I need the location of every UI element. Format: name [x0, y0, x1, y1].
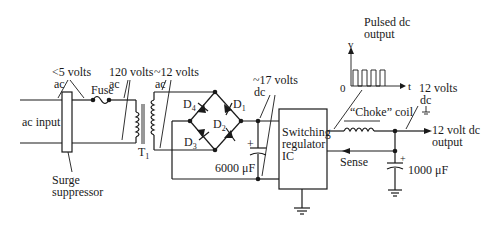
sense-arrow-icon [342, 148, 350, 154]
primary-coil-icon [136, 112, 139, 137]
surge-leader [68, 152, 72, 172]
reference-ground-icon [422, 106, 430, 114]
label-12-dc: dc [420, 94, 431, 107]
label-120-ac: ac [109, 78, 120, 91]
label-ic-ic: IC [282, 150, 294, 163]
label-ac-input: ac input [22, 116, 60, 129]
choke-coil-icon [344, 128, 374, 131]
output-arrow-icon [424, 128, 432, 134]
label-pulsed-output: output [364, 28, 395, 41]
diode-d3-icon [197, 129, 209, 140]
label-6000-uf: 6000 μF [215, 162, 255, 175]
label-d4: D4 [183, 98, 196, 115]
label-axis-zero: 0 [340, 82, 346, 95]
secondary-coil-icon [151, 100, 154, 135]
label-d2: D2 [213, 118, 226, 135]
label-output: output [432, 136, 463, 149]
label-axis-t: t [408, 80, 411, 93]
label-1000-uf: 1000 μF [408, 164, 448, 177]
label-sense: Sense [340, 156, 368, 169]
pulsed-dc-waveform [348, 47, 406, 89]
label-suppressor: suppressor [52, 186, 103, 199]
label-d1: D1 [233, 98, 246, 115]
label-plus-cap2: + [400, 152, 406, 165]
surge-suppressor-symbol [62, 92, 72, 152]
label-plus-cap1: + [247, 138, 254, 151]
diode-d4-icon [197, 103, 208, 113]
label-lt5-ac: ac [54, 78, 65, 91]
label-d3: D3 [184, 136, 197, 153]
label-choke-coil: “Choke” coil [350, 106, 413, 119]
label-12-ac: ac [155, 78, 166, 91]
output-ground-icon [388, 190, 402, 196]
label-17-dc: dc [254, 86, 265, 99]
fuse-icon [93, 97, 109, 104]
power-supply-circuit-diagram: ac input <5 volts ac Fuse 120 volts ac ~… [0, 0, 492, 228]
label-transformer-t1: T1 [138, 146, 149, 163]
label-axis-v: v [348, 38, 354, 51]
ground-icon [294, 208, 310, 214]
